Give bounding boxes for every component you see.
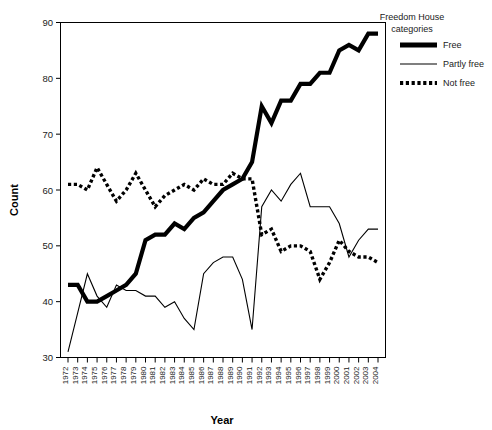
svg-text:1994: 1994 bbox=[274, 366, 283, 384]
legend-label-not-free: Not free bbox=[443, 78, 475, 88]
svg-text:2000: 2000 bbox=[332, 366, 341, 384]
svg-text:70: 70 bbox=[42, 129, 53, 140]
svg-text:1979: 1979 bbox=[129, 366, 138, 384]
svg-text:1998: 1998 bbox=[313, 366, 322, 384]
svg-text:1999: 1999 bbox=[323, 366, 332, 384]
svg-text:1989: 1989 bbox=[226, 366, 235, 384]
svg-text:2002: 2002 bbox=[352, 366, 361, 384]
svg-text:50: 50 bbox=[42, 240, 53, 251]
svg-text:1976: 1976 bbox=[100, 366, 109, 384]
svg-text:1993: 1993 bbox=[264, 366, 273, 384]
y-axis-title: Count bbox=[8, 184, 20, 216]
series-line-not-free bbox=[68, 168, 378, 280]
legend: Freedom House categories Free Partly fre… bbox=[380, 12, 484, 88]
svg-text:1991: 1991 bbox=[245, 366, 254, 384]
chart-figure: 30405060708090 1972197319741975197619771… bbox=[0, 0, 492, 430]
svg-text:1995: 1995 bbox=[284, 366, 293, 384]
series-line-free bbox=[68, 34, 378, 302]
svg-text:1974: 1974 bbox=[80, 366, 89, 384]
svg-text:1990: 1990 bbox=[235, 366, 244, 384]
svg-text:1996: 1996 bbox=[294, 366, 303, 384]
legend-label-partly-free: Partly free bbox=[443, 59, 484, 69]
x-axis-title: Year bbox=[210, 414, 234, 426]
svg-text:1980: 1980 bbox=[139, 366, 148, 384]
x-axis-ticks: 1972197319741975197619771978197919801981… bbox=[61, 358, 380, 385]
svg-text:1986: 1986 bbox=[197, 366, 206, 384]
svg-text:1982: 1982 bbox=[158, 366, 167, 384]
legend-label-free: Free bbox=[443, 40, 462, 50]
svg-text:1981: 1981 bbox=[148, 366, 157, 384]
svg-text:1997: 1997 bbox=[303, 366, 312, 384]
legend-title-line2: categories bbox=[391, 24, 433, 34]
svg-text:1992: 1992 bbox=[255, 366, 264, 384]
svg-text:90: 90 bbox=[42, 17, 53, 28]
svg-text:60: 60 bbox=[42, 185, 53, 196]
svg-text:30: 30 bbox=[42, 352, 53, 363]
svg-text:1983: 1983 bbox=[168, 366, 177, 384]
line-chart-canvas: 30405060708090 1972197319741975197619771… bbox=[0, 0, 492, 430]
svg-text:2001: 2001 bbox=[342, 366, 351, 384]
svg-text:1987: 1987 bbox=[206, 366, 215, 384]
svg-text:2003: 2003 bbox=[361, 366, 370, 384]
legend-title-line1: Freedom House bbox=[380, 12, 445, 22]
svg-text:40: 40 bbox=[42, 296, 53, 307]
svg-text:80: 80 bbox=[42, 73, 53, 84]
svg-text:1972: 1972 bbox=[61, 366, 70, 384]
svg-text:1977: 1977 bbox=[109, 366, 118, 384]
svg-text:1975: 1975 bbox=[90, 366, 99, 384]
svg-text:1985: 1985 bbox=[187, 366, 196, 384]
y-axis-ticks: 30405060708090 bbox=[42, 17, 61, 363]
svg-text:2004: 2004 bbox=[371, 366, 380, 384]
svg-text:1988: 1988 bbox=[216, 366, 225, 384]
svg-text:1973: 1973 bbox=[71, 366, 80, 384]
svg-text:1978: 1978 bbox=[119, 366, 128, 384]
svg-text:1984: 1984 bbox=[177, 366, 186, 384]
